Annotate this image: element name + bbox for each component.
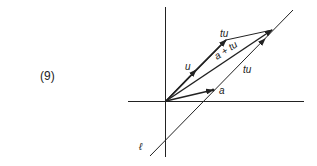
label-tu-line: tu bbox=[243, 64, 252, 75]
label-a: a bbox=[219, 85, 225, 96]
label-u: u bbox=[185, 61, 191, 72]
label-tu-top: tu bbox=[220, 28, 229, 39]
vector-diagram: (9) u tu a + tu tu a ℓ bbox=[0, 0, 317, 166]
label-line-l: ℓ bbox=[138, 141, 143, 152]
equation-number: (9) bbox=[40, 69, 55, 83]
vector-u bbox=[166, 70, 196, 101]
label-a-plus-tu: a + tu bbox=[212, 38, 240, 61]
